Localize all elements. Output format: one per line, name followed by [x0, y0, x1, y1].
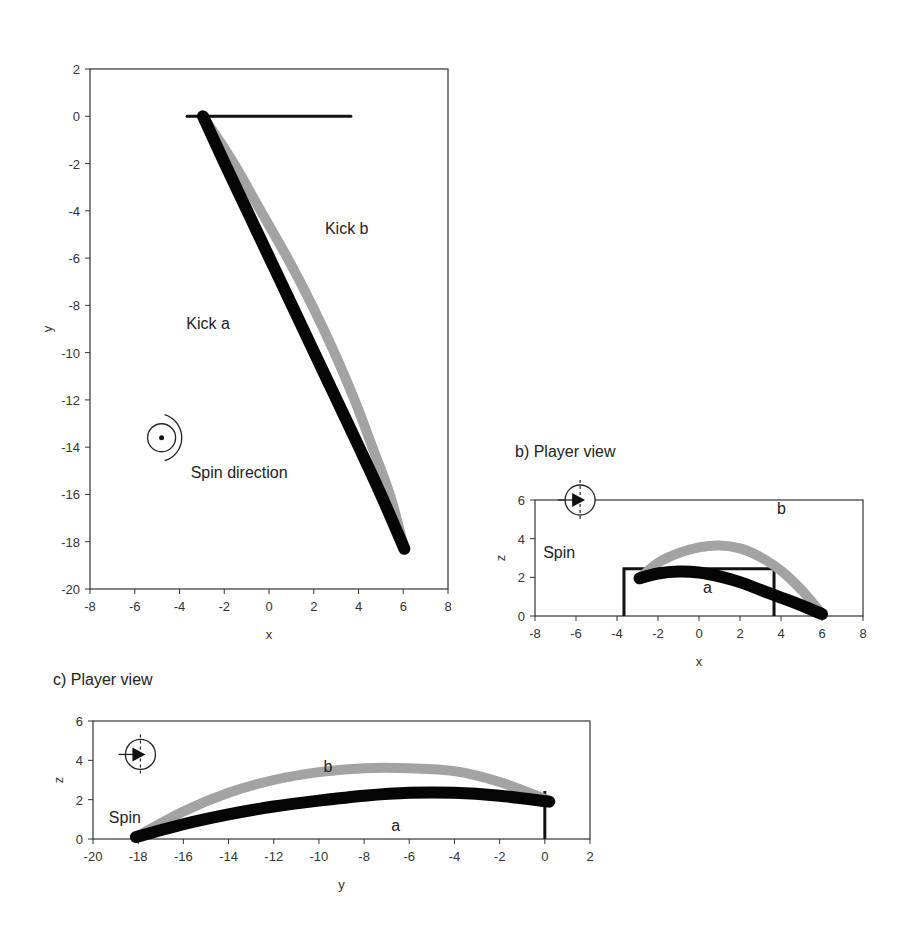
y-tick-label: -14 — [61, 440, 80, 455]
x-tick-label: 0 — [541, 849, 548, 864]
x-tick-label: -18 — [129, 849, 148, 864]
figure: -8-6-4-20246820-2-4-6-8-10-12-14-16-18-2… — [0, 0, 912, 925]
y-tick-label: -10 — [61, 346, 80, 361]
y-tick-label: 0 — [518, 609, 525, 624]
y-tick-label: -4 — [68, 204, 80, 219]
y-tick-label: 6 — [518, 493, 525, 508]
annotation-label: Spin direction — [191, 464, 288, 481]
panel-title: c) Player view — [53, 671, 153, 688]
y-axis-title: z — [51, 777, 66, 784]
y-tick-label: -6 — [68, 251, 80, 266]
spin-axis-icon — [118, 734, 155, 776]
panel-a: -8-6-4-20246820-2-4-6-8-10-12-14-16-18-2… — [40, 62, 452, 642]
y-axis-title: y — [40, 325, 55, 332]
annotation-label: Spin — [543, 544, 575, 561]
x-axis-title: x — [266, 627, 273, 642]
annotation-label: a — [391, 817, 400, 834]
annotation-label: b — [323, 758, 332, 775]
spin-center-dot — [159, 435, 164, 440]
x-tick-label: -8 — [529, 626, 541, 641]
x-tick-label: -4 — [174, 599, 186, 614]
y-tick-label: 0 — [73, 109, 80, 124]
y-tick-label: 4 — [518, 532, 525, 547]
y-tick-label: 2 — [76, 793, 83, 808]
trajectory-a — [136, 792, 549, 837]
x-tick-label: -6 — [129, 599, 141, 614]
x-tick-label: -2 — [218, 599, 230, 614]
y-tick-label: -8 — [68, 298, 80, 313]
spin-axis-icon — [558, 480, 595, 522]
x-tick-label: -8 — [358, 849, 370, 864]
x-tick-label: 4 — [777, 626, 784, 641]
y-tick-label: -18 — [61, 535, 80, 550]
y-tick-label: -20 — [61, 582, 80, 597]
x-tick-label: -6 — [403, 849, 415, 864]
y-tick-label: -2 — [68, 157, 80, 172]
trajectory-kick-a — [203, 116, 404, 549]
y-tick-label: -12 — [61, 393, 80, 408]
y-tick-label: 0 — [76, 832, 83, 847]
x-tick-label: -2 — [652, 626, 664, 641]
x-tick-label: -20 — [84, 849, 103, 864]
x-axis-title: y — [338, 877, 345, 892]
x-tick-label: 8 — [444, 599, 451, 614]
x-tick-label: -4 — [611, 626, 623, 641]
x-tick-label: -4 — [449, 849, 461, 864]
annotation-label: Spin — [109, 809, 141, 826]
x-tick-label: -14 — [219, 849, 238, 864]
y-tick-label: 6 — [76, 714, 83, 729]
x-tick-label: -2 — [494, 849, 506, 864]
y-tick-label: 4 — [76, 753, 83, 768]
x-tick-label: 8 — [859, 626, 866, 641]
panel-title: b) Player view — [515, 443, 616, 460]
x-tick-label: -10 — [310, 849, 329, 864]
x-tick-label: 2 — [310, 599, 317, 614]
annotation-label: Kick b — [325, 220, 369, 237]
x-tick-label: 2 — [586, 849, 593, 864]
spin-outer-arc — [165, 415, 182, 461]
x-tick-label: 2 — [736, 626, 743, 641]
annotation-label: a — [703, 579, 712, 596]
x-axis-title: x — [696, 654, 703, 669]
y-tick-label: 2 — [518, 570, 525, 585]
annotation-label: b — [777, 500, 786, 517]
x-tick-label: -6 — [570, 626, 582, 641]
x-tick-label: -16 — [174, 849, 193, 864]
x-tick-label: 4 — [355, 599, 362, 614]
x-tick-label: 6 — [400, 599, 407, 614]
spin-direction-icon — [148, 415, 182, 461]
x-tick-label: 0 — [695, 626, 702, 641]
y-axis-title: z — [493, 555, 508, 562]
annotation-label: Kick a — [186, 315, 230, 332]
x-tick-label: -12 — [264, 849, 283, 864]
y-tick-label: -16 — [61, 487, 80, 502]
panel-b: -8-6-4-2024680246xzb) Player viewbaSpin — [493, 443, 867, 669]
panel-c: -20-18-16-14-12-10-8-6-4-2020246yzc) Pla… — [51, 671, 594, 892]
x-tick-label: 0 — [265, 599, 272, 614]
x-tick-label: -8 — [84, 599, 96, 614]
x-tick-label: 6 — [818, 626, 825, 641]
y-tick-label: 2 — [73, 62, 80, 77]
